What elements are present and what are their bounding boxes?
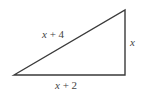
horizontal-leg-label: x + 2 (54, 79, 77, 91)
hypotenuse-label: x + 4 (41, 28, 65, 40)
right-triangle-diagram: x + 4 x x + 2 (0, 0, 142, 94)
vertical-leg-label: x (129, 36, 135, 48)
triangle-outline (14, 10, 125, 75)
